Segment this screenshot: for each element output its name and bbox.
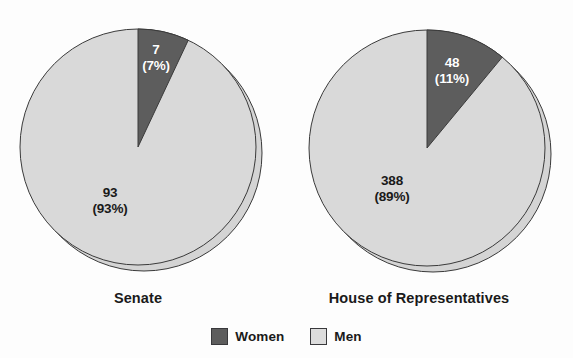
legend-swatch-men xyxy=(310,328,327,345)
slice-value-men: 388 xyxy=(359,173,425,189)
slice-percent-men: (93%) xyxy=(80,201,140,217)
slice-percent-women: (7%) xyxy=(126,58,186,74)
slice-label-men: 93 (93%) xyxy=(80,185,140,216)
slice-value-men: 93 xyxy=(80,185,140,201)
chart-title-senate: Senate xyxy=(8,290,268,306)
legend-item-men: Men xyxy=(310,328,361,345)
pie-senate: 7 (7%) 93 (93%) xyxy=(8,20,268,290)
slice-label-women: 7 (7%) xyxy=(126,42,186,73)
slice-label-women: 48 (11%) xyxy=(419,55,485,86)
slice-percent-women: (11%) xyxy=(419,71,485,87)
slice-percent-men: (89%) xyxy=(359,189,425,205)
slice-value-women: 7 xyxy=(126,42,186,58)
chart-title-house: House of Representatives xyxy=(269,290,569,306)
slice-label-men: 388 (89%) xyxy=(359,173,425,204)
legend-swatch-women xyxy=(211,328,228,345)
legend: Women Men xyxy=(0,328,573,345)
legend-label-women: Women xyxy=(235,329,284,344)
pie-house: 48 (11%) 388 (89%) xyxy=(297,21,557,291)
slice-value-women: 48 xyxy=(419,55,485,71)
legend-item-women: Women xyxy=(211,328,284,345)
pie-chart-figure: 7 (7%) 93 (93%) Senate 48 (11%) xyxy=(0,0,573,358)
legend-label-men: Men xyxy=(334,329,361,344)
scan-artifact xyxy=(470,0,510,9)
